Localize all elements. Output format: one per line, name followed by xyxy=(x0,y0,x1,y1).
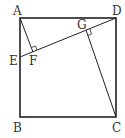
label-f: F xyxy=(29,54,37,68)
geometry-diagram: A D B C E F G xyxy=(0,0,125,138)
label-c: C xyxy=(112,121,121,135)
right-angle-mark-g xyxy=(88,29,92,36)
label-d: D xyxy=(112,4,122,18)
label-a: A xyxy=(12,4,22,18)
segment-cg xyxy=(86,30,116,117)
label-e: E xyxy=(9,54,18,68)
label-b: B xyxy=(13,121,22,135)
label-g: G xyxy=(77,18,87,32)
segment-ed xyxy=(20,18,116,57)
segment-af xyxy=(20,18,33,52)
